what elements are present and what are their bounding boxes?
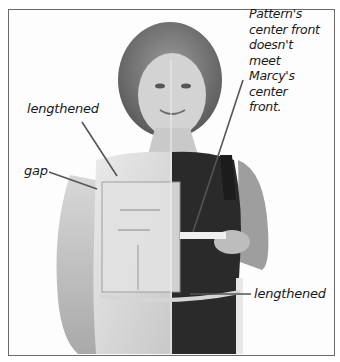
annotation-line: meet [249, 53, 339, 69]
annotation-lengthened-bottom: lengthened [254, 286, 326, 301]
face [138, 53, 206, 137]
annotation-line: Marcy's [249, 68, 339, 84]
annotation-line: doesn't [249, 37, 339, 53]
right-arm [238, 160, 268, 270]
annotation-line: Pattern's [249, 6, 339, 22]
pattern-piece [102, 182, 180, 292]
measuring-tape [236, 278, 243, 354]
annotation-gap: gap [24, 163, 48, 178]
annotation-line: center [249, 84, 339, 100]
annotation-center-front: Pattern's center front doesn't meet Marc… [249, 6, 339, 115]
annotation-line: center front [249, 22, 339, 38]
annotation-line: front. [249, 99, 339, 115]
annotation-lengthened-top: lengthened [27, 101, 99, 116]
